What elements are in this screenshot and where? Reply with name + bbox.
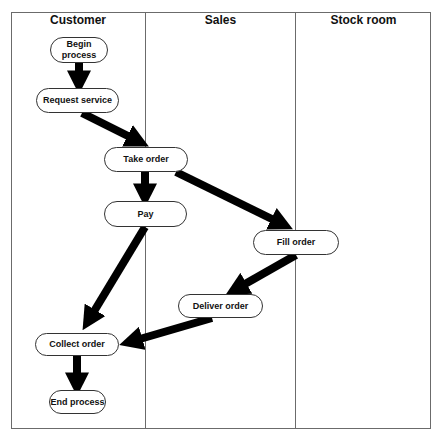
node-begin-process[interactable]: Begin process [50,37,108,63]
node-request-service[interactable]: Request service [36,88,119,113]
arrow-request-to-take [82,113,136,140]
arrow-deliver-to-collect [133,318,212,341]
node-fill-order[interactable]: Fill order [253,230,339,255]
node-end-process[interactable]: End process [49,390,106,414]
arrow-pay-to-collect [90,227,145,318]
flow-arrows [0,0,443,445]
node-take-order[interactable]: Take order [104,147,188,172]
node-pay[interactable]: Pay [104,201,187,227]
arrow-fill-to-deliver [238,255,296,288]
node-collect-order[interactable]: Collect order [35,333,119,356]
node-deliver-order[interactable]: Deliver order [178,294,263,318]
arrow-take-to-fill [176,172,280,223]
